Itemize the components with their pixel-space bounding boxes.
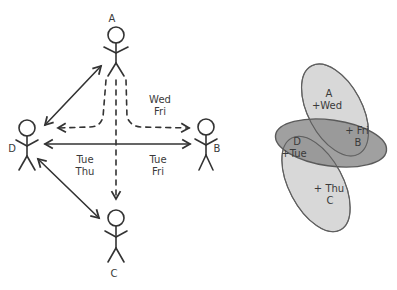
label-tue-left: Tue bbox=[75, 154, 93, 165]
person-b-label: B bbox=[214, 143, 221, 154]
person-c-label: C bbox=[111, 268, 118, 279]
diagram-canvas: A D B C bbox=[0, 0, 397, 290]
person-a: A bbox=[104, 13, 128, 76]
venn-label-d: D bbox=[293, 136, 301, 147]
person-b: B bbox=[195, 119, 221, 170]
label-thu-left: Thu bbox=[75, 166, 95, 177]
venn-label-b: B bbox=[355, 137, 362, 148]
label-fri-right: Fri bbox=[152, 166, 164, 177]
venn-label-fri: + Fri bbox=[345, 125, 368, 136]
person-d: D bbox=[8, 120, 38, 170]
venn-label-thu: + Thu bbox=[314, 183, 344, 194]
ellipse-diagram: A +Wed + Fri B D +Tue + Thu C bbox=[268, 53, 390, 242]
venn-label-c: C bbox=[327, 195, 334, 206]
arrow-a-d bbox=[45, 66, 101, 125]
label-fri: Fri bbox=[154, 106, 166, 117]
label-tue-right: Tue bbox=[148, 154, 166, 165]
label-wed: Wed bbox=[149, 94, 171, 105]
person-c: C bbox=[105, 210, 127, 279]
person-a-label: A bbox=[109, 13, 116, 24]
venn-label-a: A bbox=[326, 88, 333, 99]
venn-label-wed: +Wed bbox=[312, 100, 342, 111]
venn-label-tue: +Tue bbox=[281, 148, 306, 159]
person-d-label: D bbox=[8, 143, 16, 154]
